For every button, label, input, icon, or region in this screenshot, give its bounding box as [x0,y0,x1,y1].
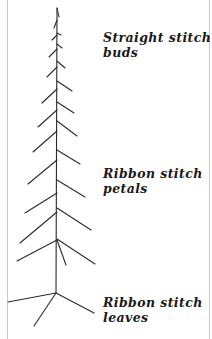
petal-stitch [57,150,80,164]
label-line: Straight stitch [103,30,211,45]
petal-stitch [17,240,57,261]
leaf-stitch [34,293,56,326]
label-line: leaves [103,310,203,325]
bud-stitch [57,44,62,48]
petal-stitch [20,212,57,243]
petal-stitch [28,160,57,184]
label-ribbon-stitch-petals: Ribbon stitch petals [103,166,203,196]
petal-stitch [38,110,57,127]
bud-stitch [57,61,65,68]
leaf-stitch [56,293,94,313]
petal-stitch [25,193,57,213]
label-line: Ribbon stitch [103,166,203,181]
bud-stitch [57,33,61,35]
label-line: Ribbon stitch [103,295,203,310]
petal-stitch [57,208,91,230]
petal-stitch [57,121,77,136]
petal-stitch [57,102,74,113]
petal-stitch [57,239,95,264]
label-line: buds [103,45,211,60]
label-ribbon-stitch-leaves: Ribbon stitch leaves [103,295,203,325]
petal-stitch [57,180,85,197]
petal-stitch [33,131,57,152]
bud-stitch [47,67,57,77]
bud-stitch [49,49,57,57]
label-line: petals [103,181,203,196]
leaf-stitch [8,293,56,302]
label-straight-stitch-buds: Straight stitch buds [103,30,211,60]
petal-stitch [57,81,72,91]
petal-stitch [42,89,57,103]
bud-stitch [52,35,57,40]
